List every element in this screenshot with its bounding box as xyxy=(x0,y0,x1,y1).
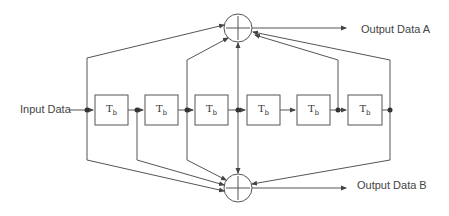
input-data-label: Input Data xyxy=(20,103,71,115)
tap-node-1 xyxy=(135,108,140,113)
tap-node-5 xyxy=(336,108,341,113)
output-b-label: Output Data B xyxy=(357,179,427,191)
delay-label-3: Tb xyxy=(195,103,228,117)
tap-a-6 xyxy=(253,32,390,110)
tap-b-6 xyxy=(252,110,390,184)
delay-label-5: Tb xyxy=(297,103,330,117)
tap-a-2 xyxy=(187,38,228,110)
tap-node-0 xyxy=(85,108,90,113)
tap-b-2 xyxy=(187,110,226,180)
delay-label-1: Tb xyxy=(95,103,128,117)
tap-a-0 xyxy=(87,25,224,110)
tap-node-3 xyxy=(236,108,241,113)
tap-node-2 xyxy=(185,108,190,113)
output-a-label: Output Data A xyxy=(361,23,430,35)
tap-b-1 xyxy=(137,110,224,185)
delay-label-4: Tb xyxy=(247,103,280,117)
tap-node-6 xyxy=(388,108,393,113)
delay-label-6: Tb xyxy=(348,103,382,117)
delay-label-2: Tb xyxy=(145,103,178,117)
